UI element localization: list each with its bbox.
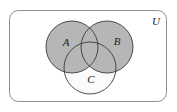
set-c-label: C [87, 73, 95, 85]
set-a-label: A [62, 36, 70, 48]
venn-diagram-canvas: A B C U [0, 0, 177, 112]
set-b-label: B [114, 35, 121, 47]
venn-diagram-figure: A B C U [0, 0, 177, 112]
universe-label: U [152, 15, 161, 27]
